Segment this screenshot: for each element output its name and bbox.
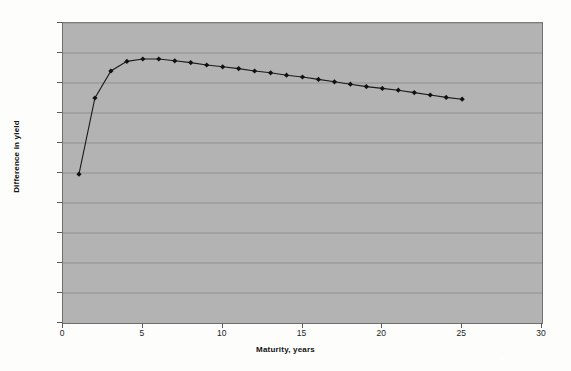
axis-titles-layer: Difference in yield Maturity, years [0, 0, 571, 371]
y-axis-title: Difference in yield [12, 77, 21, 237]
yield-difference-chart: 0.00%0.50%1.00%1.50%2.00%2.50%3.00%3.50%… [0, 0, 571, 371]
x-axis-title: Maturity, years [0, 345, 571, 354]
